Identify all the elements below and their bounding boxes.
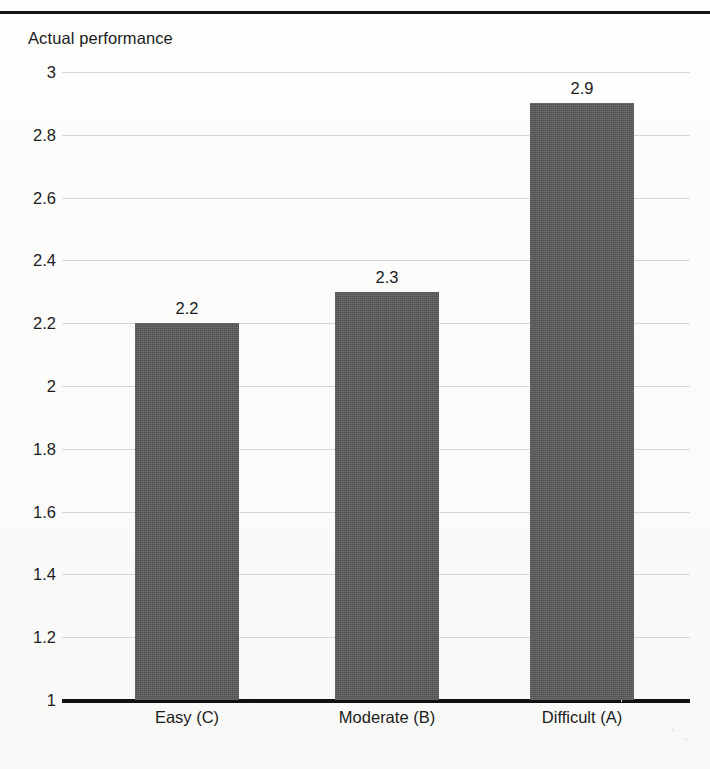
y-axis-tick-label: 1.2 [4, 628, 56, 647]
y-axis-tick-label: 1.8 [4, 439, 56, 458]
y-axis-tick-label: 2 [4, 377, 56, 396]
bar-value-label: 2.9 [571, 79, 594, 98]
y-axis-tick-label: 3 [4, 63, 56, 82]
y-axis-tick-label: 2.2 [4, 314, 56, 333]
bar [135, 323, 239, 700]
y-axis-tick-label: 1.6 [4, 502, 56, 521]
y-axis-tick-label: 1 [4, 691, 56, 710]
gridline [62, 72, 690, 73]
y-axis-tick-label: 2.4 [4, 251, 56, 270]
bar-value-label: 2.3 [376, 268, 399, 287]
y-axis-tick-label: 2.8 [4, 125, 56, 144]
x-axis-category-label: Easy (C) [155, 708, 219, 727]
bar-chart-plot-area: 32.82.62.42.221.81.61.41.212.2Easy (C)2.… [0, 0, 710, 769]
bar-value-label: 2.2 [176, 299, 199, 318]
y-axis-tick-label: 2.6 [4, 188, 56, 207]
x-axis-category-label: Moderate (B) [339, 708, 435, 727]
y-axis-tick-label: 1.4 [4, 565, 56, 584]
x-axis-category-label: Difficult (A) [542, 708, 622, 727]
bar [335, 292, 439, 700]
bar [530, 103, 634, 700]
